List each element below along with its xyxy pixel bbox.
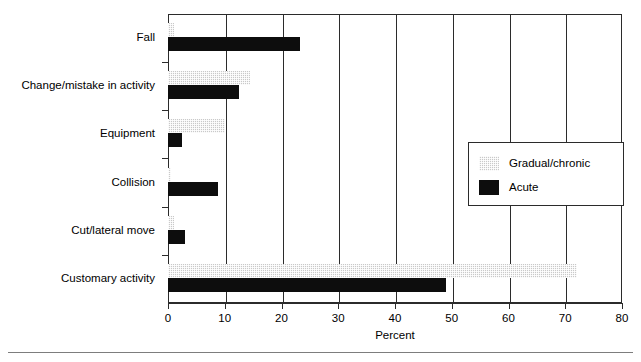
- category-label-equipment: Equipment: [0, 127, 155, 140]
- x-tick-label-80: 80: [602, 311, 641, 325]
- bar-acute-cut-lateral-move[interactable]: [168, 230, 185, 244]
- bar-group-change-mistake: [168, 62, 622, 110]
- legend-label-acute: Acute: [509, 181, 538, 193]
- category-label-collision: Collision: [0, 176, 155, 189]
- bar-gradual-change-mistake[interactable]: [168, 71, 250, 85]
- x-tick-label-40: 40: [375, 311, 415, 325]
- bar-acute-collision[interactable]: [168, 182, 218, 196]
- bar-group-cut-lateral-move: [168, 207, 622, 255]
- bar-gradual-equipment[interactable]: [168, 119, 225, 133]
- bar-acute-customary-activity[interactable]: [168, 278, 446, 292]
- x-tick-40: [395, 303, 396, 309]
- x-tick-label-0: 0: [148, 311, 188, 325]
- x-tick-20: [282, 303, 283, 309]
- x-tick-30: [338, 303, 339, 309]
- x-axis-title: Percent: [168, 329, 622, 341]
- x-tick-10: [225, 303, 226, 309]
- gradual-chronic-swatch: [479, 156, 499, 171]
- category-labels: Fall Change/mistake in activity Equipmen…: [0, 14, 163, 303]
- x-tick-label-70: 70: [545, 311, 585, 325]
- x-tick-80: [622, 303, 623, 309]
- chart-legend: Gradual/chronic Acute: [468, 142, 624, 206]
- x-tick-70: [565, 303, 566, 309]
- acute-swatch: [479, 180, 499, 195]
- bar-gradual-fall[interactable]: [168, 23, 174, 37]
- category-label-customary-activity: Customary activity: [0, 272, 155, 285]
- bottom-divider: [8, 352, 633, 353]
- bar-group-fall: [168, 14, 622, 62]
- legend-item-acute: Acute: [479, 175, 623, 199]
- bar-group-customary-activity: [168, 255, 622, 303]
- x-tick-0: [168, 303, 169, 309]
- x-tick-50: [452, 303, 453, 309]
- x-tick-label-10: 10: [205, 311, 245, 325]
- bar-gradual-customary-activity[interactable]: [168, 264, 577, 278]
- category-label-change-mistake: Change/mistake in activity: [0, 79, 155, 92]
- bar-gradual-cut-lateral-move[interactable]: [168, 216, 174, 230]
- bar-gradual-collision[interactable]: [168, 168, 171, 182]
- x-tick-label-30: 30: [318, 311, 358, 325]
- x-tick-60: [509, 303, 510, 309]
- chart-figure: Fall Change/mistake in activity Equipmen…: [0, 0, 641, 362]
- legend-item-gradual-chronic: Gradual/chronic: [479, 151, 623, 175]
- x-tick-label-20: 20: [262, 311, 302, 325]
- category-label-fall: Fall: [0, 31, 155, 44]
- bar-acute-change-mistake[interactable]: [168, 85, 239, 99]
- bar-acute-equipment[interactable]: [168, 133, 182, 147]
- legend-label-gradual-chronic: Gradual/chronic: [509, 157, 590, 169]
- x-tick-label-50: 50: [432, 311, 472, 325]
- x-tick-label-60: 60: [489, 311, 529, 325]
- bar-acute-fall[interactable]: [168, 37, 300, 51]
- category-label-cut-lateral-move: Cut/lateral move: [0, 224, 155, 237]
